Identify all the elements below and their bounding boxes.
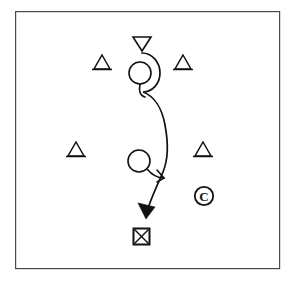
target-marker: [134, 229, 150, 245]
player-circle-icon: [129, 62, 151, 84]
play-diagram-svg: C: [0, 0, 295, 286]
coach-marker-label: C: [199, 189, 208, 204]
diagram-canvas: C: [0, 0, 295, 286]
